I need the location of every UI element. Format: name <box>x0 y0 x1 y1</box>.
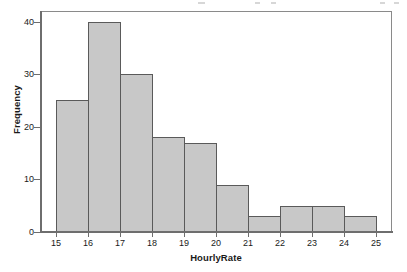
x-axis-title: HourlyRate <box>40 252 392 263</box>
histogram-bar <box>280 206 313 232</box>
x-tick-label: 21 <box>236 238 260 248</box>
scan-artifact <box>394 2 399 4</box>
scan-artifact <box>198 2 205 4</box>
x-tick-label: 17 <box>108 238 132 248</box>
scan-artifact <box>271 2 276 4</box>
histogram-bar <box>344 216 377 232</box>
x-tick-mark <box>216 232 217 237</box>
y-tick-label: 10 <box>8 174 34 184</box>
x-tick-mark <box>120 232 121 237</box>
histogram-bar <box>152 137 185 232</box>
x-tick-label: 22 <box>268 238 292 248</box>
histogram-bar <box>120 74 153 232</box>
x-tick-label: 23 <box>300 238 324 248</box>
y-axis-title: Frequency <box>11 75 22 145</box>
x-tick-label: 19 <box>172 238 196 248</box>
scan-artifact <box>255 2 260 4</box>
y-tick-mark <box>34 127 40 128</box>
x-tick-label: 16 <box>76 238 100 248</box>
histogram-bar <box>248 216 281 232</box>
histogram-bar <box>312 206 345 232</box>
x-tick-mark <box>248 232 249 237</box>
x-tick-label: 18 <box>140 238 164 248</box>
x-tick-mark <box>312 232 313 237</box>
x-tick-mark <box>376 232 377 237</box>
x-tick-label: 15 <box>44 238 68 248</box>
scan-artifact <box>380 2 385 4</box>
x-tick-label: 25 <box>364 238 388 248</box>
x-tick-mark <box>184 232 185 237</box>
x-tick-mark <box>152 232 153 237</box>
y-tick-mark <box>34 74 40 75</box>
histogram-chart: 010203040 1516171819202122232425 Frequen… <box>0 0 407 272</box>
x-tick-mark <box>56 232 57 237</box>
x-tick-mark <box>88 232 89 237</box>
y-axis-line <box>40 11 42 232</box>
y-tick-label: 0 <box>8 227 34 237</box>
x-tick-mark <box>344 232 345 237</box>
histogram-bar <box>88 22 121 232</box>
x-tick-label: 20 <box>204 238 228 248</box>
x-tick-mark <box>280 232 281 237</box>
histogram-bar <box>56 100 89 232</box>
y-tick-mark <box>34 179 40 180</box>
y-tick-mark <box>34 22 40 23</box>
y-tick-label: 40 <box>8 17 34 27</box>
histogram-bar <box>216 185 249 232</box>
y-tick-mark <box>34 232 40 233</box>
histogram-bar <box>184 143 217 232</box>
x-tick-label: 24 <box>332 238 356 248</box>
